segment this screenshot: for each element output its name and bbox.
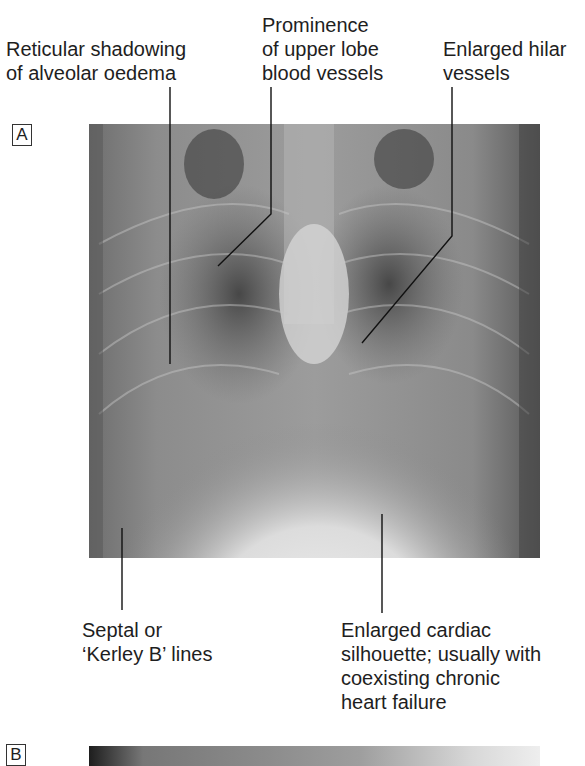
annotation-hilar-vessels: Enlarged hilar vessels: [443, 37, 566, 85]
annotation-reticular-shadowing: Reticular shadowing of alveolar oedema: [6, 37, 186, 85]
panel-tag-b: B: [6, 744, 26, 766]
panel-tag-a: A: [12, 124, 32, 146]
annotation-cardiac-silhouette: Enlarged cardiac silhouette; usually wit…: [341, 618, 541, 714]
xray-image-a: [89, 124, 540, 558]
annotation-upper-lobe-vessels: Prominence of upper lobe blood vessels: [262, 13, 383, 85]
annotation-kerley-b-lines: Septal or ‘Kerley B’ lines: [82, 618, 212, 666]
xray-image-b: [89, 746, 540, 766]
xray-chest-illustration: [89, 124, 540, 558]
